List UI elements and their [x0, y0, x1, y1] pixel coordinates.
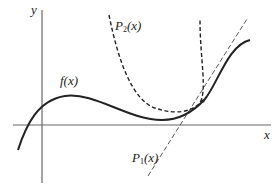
f-label: f(x)	[60, 74, 78, 87]
p1-label-arg: (x)	[144, 150, 158, 165]
tangent-point	[201, 99, 204, 102]
p1-label: P1(x)	[132, 151, 158, 166]
p2-label-arg: (x)	[127, 18, 141, 33]
x-axis-label: x	[264, 128, 270, 141]
p1-label-base: P	[132, 150, 140, 165]
y-axis-label: y	[31, 3, 37, 16]
p2-label-base: P	[115, 18, 123, 33]
taylor-polynomial-diagram: y x f(x) P2(x) P1(x)	[0, 0, 278, 189]
f-curve	[18, 40, 250, 150]
p1-tangent-line	[148, 19, 247, 176]
p2-label: P2(x)	[115, 19, 141, 34]
